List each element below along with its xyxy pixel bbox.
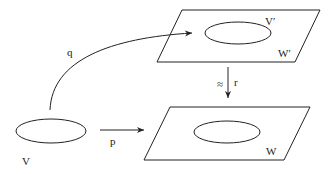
label-q: q <box>67 46 73 58</box>
label-v-prime: V′ <box>265 15 275 27</box>
label-r: r <box>234 76 238 88</box>
set-v <box>16 119 86 143</box>
label-w-prime: W′ <box>278 47 291 59</box>
label-w: W <box>266 145 277 157</box>
plane-w <box>144 107 310 160</box>
set-w-ellipse <box>194 121 260 143</box>
plane-w-prime <box>157 10 320 62</box>
label-approx: ≈ <box>217 78 223 90</box>
arrow-q <box>50 33 192 110</box>
label-p: p <box>110 135 116 147</box>
diagram-canvas: V′ W′ W V q p r ≈ <box>0 0 333 174</box>
set-v-prime <box>205 22 271 44</box>
label-v: V <box>22 155 30 167</box>
